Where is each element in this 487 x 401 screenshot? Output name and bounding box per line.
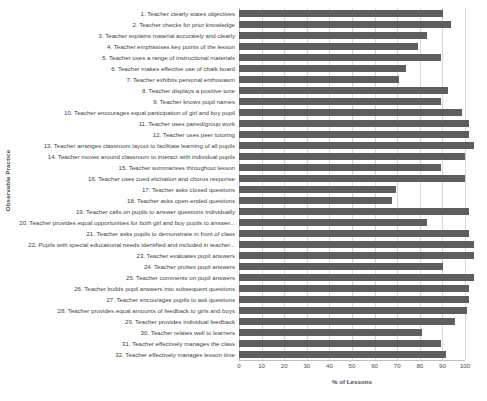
category-label: 24. Teacher probes pupil answers	[14, 263, 239, 270]
chart-row: 12. Teacher uses peer tutoring	[14, 129, 474, 140]
x-tick-label: 0	[237, 362, 240, 369]
chart-row: 20. Teacher provides equal opportunities…	[14, 217, 474, 228]
x-axis-title: % of Lessons	[239, 378, 465, 385]
bar-track	[239, 140, 474, 151]
chart-row: 32. Teacher effectively manages lesson t…	[14, 349, 474, 360]
bar	[239, 274, 474, 280]
chart-row: 21. Teacher asks pupils to demonstrate i…	[14, 228, 474, 239]
bar	[239, 186, 396, 192]
bar	[239, 98, 441, 104]
category-label: 3. Teacher explains material accurately …	[14, 32, 239, 39]
x-tick-label: 50	[349, 362, 356, 369]
chart-row: 24. Teacher probes pupil answers	[14, 261, 474, 272]
x-tick-label: 70	[394, 362, 401, 369]
chart-row: 5. Teacher uses a range of instructional…	[14, 52, 474, 63]
category-label: 17. Teacher asks closed questions	[14, 186, 239, 193]
category-label: 19. Teacher calls on pupils to answer qu…	[14, 208, 239, 215]
bar-track	[239, 327, 474, 338]
chart-row: 18. Teacher asks open-ended questions	[14, 195, 474, 206]
bar	[239, 197, 392, 203]
bar	[239, 340, 441, 346]
chart-row: 10. Teacher encourages equal participati…	[14, 107, 474, 118]
category-label: 22. Pupils with special educational need…	[14, 241, 239, 248]
x-tick-label: 40	[326, 362, 333, 369]
bar	[239, 54, 441, 60]
category-label: 11. Teacher uses paired/group work	[14, 120, 239, 127]
x-axis-ticks: 0102030405060708090100	[239, 362, 465, 374]
bar-track	[239, 294, 474, 305]
bar-track	[239, 283, 474, 294]
x-tick-label: 80	[416, 362, 423, 369]
bar-track	[239, 74, 474, 85]
category-label: 21. Teacher asks pupils to demonstrate i…	[14, 230, 239, 237]
bar	[239, 351, 446, 357]
bar	[239, 230, 469, 236]
bar-track	[239, 228, 474, 239]
chart-row: 26. Teacher builds pupil answers into su…	[14, 283, 474, 294]
chart-row: 7. Teacher exhibits personal enthusiasm	[14, 74, 474, 85]
bar	[239, 252, 474, 258]
bar-track	[239, 272, 474, 283]
bar	[239, 10, 443, 16]
category-label: 29. Teacher provides individual feedback	[14, 318, 239, 325]
bar	[239, 153, 465, 159]
bar-track	[239, 85, 474, 96]
x-tick-label: 10	[258, 362, 265, 369]
bar-track	[239, 162, 474, 173]
chart-row: 15. Teacher summarises throughout lesson	[14, 162, 474, 173]
category-label: 5. Teacher uses a range of instructional…	[14, 54, 239, 61]
category-label: 1. Teacher clearly states objectives	[14, 10, 239, 17]
chart-row: 23. Teacher evaluates pupil answers	[14, 250, 474, 261]
bar	[239, 142, 474, 148]
bar	[239, 296, 469, 302]
bar	[239, 263, 443, 269]
bar-track	[239, 173, 474, 184]
bar	[239, 120, 469, 126]
chart-row: 6. Teacher makes effective use of chalk …	[14, 63, 474, 74]
chart-row: 13. Teacher arranges classroom layout to…	[14, 140, 474, 151]
chart-row: 28. Teacher provides equal amounts of fe…	[14, 305, 474, 316]
bar	[239, 65, 406, 71]
bar-track	[239, 195, 474, 206]
bar-track	[239, 107, 474, 118]
bar-track	[239, 41, 474, 52]
bar	[239, 76, 399, 82]
category-label: 4. Teacher emphasises key points of the …	[14, 43, 239, 50]
chart-row: 2. Teacher checks for prior knowledge	[14, 19, 474, 30]
chart-row: 14. Teacher moves around classroom to in…	[14, 151, 474, 162]
chart-row: 27. Teacher encourages pupils to ask que…	[14, 294, 474, 305]
y-axis-title-text: Observable Practice	[5, 149, 12, 210]
chart-row: 22. Pupils with special educational need…	[14, 239, 474, 250]
bar	[239, 318, 455, 324]
category-label: 12. Teacher uses peer tutoring	[14, 131, 239, 138]
bar	[239, 175, 465, 181]
category-label: 28. Teacher provides equal amounts of fe…	[14, 307, 239, 314]
chart-row: 31. Teacher effectively manages the clas…	[14, 338, 474, 349]
bar	[239, 21, 451, 27]
chart-row: 3. Teacher explains material accurately …	[14, 30, 474, 41]
bar-track	[239, 239, 474, 250]
x-tick-label: 20	[281, 362, 288, 369]
chart-row: 30. Teacher relates well to learners	[14, 327, 474, 338]
x-tick-label: 30	[303, 362, 310, 369]
category-label: 18. Teacher asks open-ended questions	[14, 197, 239, 204]
chart-row: 19. Teacher calls on pupils to answer qu…	[14, 206, 474, 217]
horizontal-bar-chart: Observable Practice 1. Teacher clearly s…	[0, 0, 487, 401]
category-label: 23. Teacher evaluates pupil answers	[14, 252, 239, 259]
chart-row: 11. Teacher uses paired/group work	[14, 118, 474, 129]
category-label: 31. Teacher effectively manages the clas…	[14, 340, 239, 347]
category-label: 20. Teacher provides equal opportunities…	[14, 219, 239, 226]
category-label: 14. Teacher moves around classroom to in…	[14, 153, 239, 160]
plot-area: 1. Teacher clearly states objectives2. T…	[14, 8, 474, 360]
category-label: 27. Teacher encourages pupils to ask que…	[14, 296, 239, 303]
bar-track	[239, 316, 474, 327]
bar	[239, 307, 467, 313]
chart-row: 9. Teacher knows pupil names	[14, 96, 474, 107]
x-tick-label: 100	[460, 362, 470, 369]
category-label: 10. Teacher encourages equal participati…	[14, 109, 239, 116]
bar-track	[239, 19, 474, 30]
category-label: 26. Teacher builds pupil answers into su…	[14, 285, 239, 292]
category-label: 7. Teacher exhibits personal enthusiasm	[14, 76, 239, 83]
bar	[239, 32, 427, 38]
bar-track	[239, 217, 474, 228]
